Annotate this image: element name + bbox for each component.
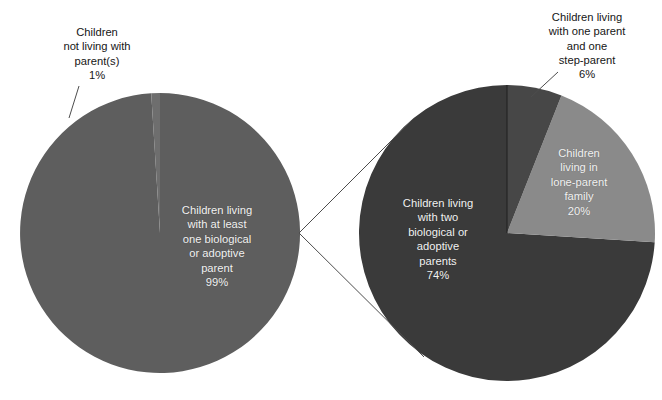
slice-label-lone-parent: Children living in lone-parent family 20…: [534, 146, 624, 218]
callout-step-parent: Children living with one parent and one …: [520, 10, 654, 81]
callout-not-living-with-parents: Children not living with parent(s) 1%: [24, 25, 170, 82]
slice-label-two-parents: Children living with two biological or a…: [382, 196, 494, 282]
pie-chart-figure: Children not living with parent(s) 1% Ch…: [0, 0, 662, 400]
leader-line-not-living-with-parents: [69, 86, 79, 118]
slice-label-at-least-one-parent: Children living with at least one biolog…: [158, 203, 276, 289]
